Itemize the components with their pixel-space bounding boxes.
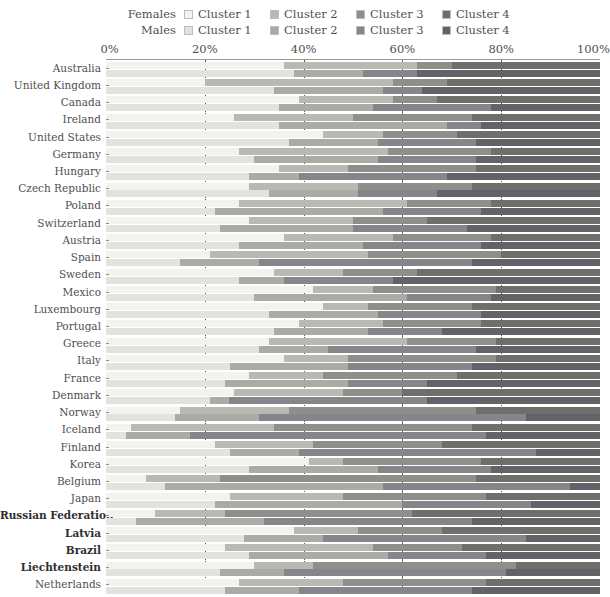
- bar-segment-cluster-4[interactable]: [491, 148, 600, 155]
- bar-segment-cluster-4[interactable]: [412, 510, 600, 517]
- bar-segment-cluster-1[interactable]: [106, 251, 210, 258]
- bar-male[interactable]: [106, 259, 600, 266]
- bar-male[interactable]: [106, 190, 600, 197]
- bar-segment-cluster-3[interactable]: [274, 424, 472, 431]
- bar-segment-cluster-4[interactable]: [536, 449, 600, 456]
- bar-segment-cluster-4[interactable]: [491, 294, 600, 301]
- bar-segment-cluster-3[interactable]: [225, 510, 413, 517]
- bar-segment-cluster-2[interactable]: [279, 165, 348, 172]
- bar-segment-cluster-4[interactable]: [476, 165, 600, 172]
- bar-segment-cluster-1[interactable]: [106, 286, 313, 293]
- bar-segment-cluster-1[interactable]: [106, 510, 155, 517]
- bar-male[interactable]: [106, 104, 600, 111]
- bar-segment-cluster-4[interactable]: [496, 338, 600, 345]
- bar-segment-cluster-2[interactable]: [136, 518, 264, 525]
- bar-segment-cluster-1[interactable]: [106, 139, 289, 146]
- bar-segment-cluster-1[interactable]: [106, 363, 230, 370]
- bar-segment-cluster-2[interactable]: [180, 407, 289, 414]
- bar-segment-cluster-2[interactable]: [313, 286, 372, 293]
- bar-segment-cluster-1[interactable]: [106, 242, 239, 249]
- bar-male[interactable]: [106, 242, 600, 249]
- bar-segment-cluster-1[interactable]: [106, 96, 299, 103]
- bar-male[interactable]: [106, 518, 600, 525]
- bar-female[interactable]: [106, 320, 600, 327]
- bar-segment-cluster-1[interactable]: [106, 397, 210, 404]
- bar-segment-cluster-4[interactable]: [427, 380, 600, 387]
- bar-segment-cluster-4[interactable]: [476, 139, 600, 146]
- bar-male[interactable]: [106, 466, 600, 473]
- bar-segment-cluster-4[interactable]: [506, 569, 600, 576]
- bar-female[interactable]: [106, 251, 600, 258]
- bar-segment-cluster-3[interactable]: [259, 259, 471, 266]
- bar-segment-cluster-2[interactable]: [244, 535, 323, 542]
- bar-segment-cluster-1[interactable]: [106, 389, 234, 396]
- bar-segment-cluster-1[interactable]: [106, 441, 215, 448]
- bar-segment-cluster-4[interactable]: [447, 79, 600, 86]
- bar-segment-cluster-1[interactable]: [106, 114, 234, 121]
- bar-segment-cluster-3[interactable]: [378, 311, 482, 318]
- bar-segment-cluster-3[interactable]: [407, 338, 496, 345]
- bar-segment-cluster-1[interactable]: [106, 458, 309, 465]
- bar-segment-cluster-2[interactable]: [249, 217, 353, 224]
- bar-segment-cluster-2[interactable]: [215, 501, 403, 508]
- bar-segment-cluster-2[interactable]: [225, 544, 373, 551]
- bar-segment-cluster-3[interactable]: [358, 190, 437, 197]
- bar-segment-cluster-1[interactable]: [106, 432, 126, 439]
- bar-segment-cluster-1[interactable]: [106, 544, 225, 551]
- bar-segment-cluster-2[interactable]: [323, 131, 382, 138]
- bar-segment-cluster-4[interactable]: [472, 363, 600, 370]
- bar-segment-cluster-2[interactable]: [175, 414, 259, 421]
- bar-segment-cluster-4[interactable]: [491, 466, 600, 473]
- bar-segment-cluster-3[interactable]: [343, 269, 417, 276]
- bar-segment-cluster-1[interactable]: [106, 569, 220, 576]
- bar-female[interactable]: [106, 338, 600, 345]
- bar-female[interactable]: [106, 269, 600, 276]
- bar-female[interactable]: [106, 458, 600, 465]
- bar-segment-cluster-2[interactable]: [249, 552, 387, 559]
- bar-female[interactable]: [106, 544, 600, 551]
- bar-segment-cluster-1[interactable]: [106, 552, 249, 559]
- bar-segment-cluster-4[interactable]: [486, 493, 600, 500]
- bar-segment-cluster-4[interactable]: [481, 458, 600, 465]
- bar-segment-cluster-2[interactable]: [234, 114, 353, 121]
- bar-female[interactable]: [106, 234, 600, 241]
- bar-segment-cluster-2[interactable]: [180, 259, 259, 266]
- bar-male[interactable]: [106, 414, 600, 421]
- bar-segment-cluster-1[interactable]: [106, 320, 299, 327]
- bar-female[interactable]: [106, 389, 600, 396]
- bar-segment-cluster-4[interactable]: [427, 397, 600, 404]
- bar-segment-cluster-1[interactable]: [106, 122, 279, 129]
- legend-item[interactable]: Cluster 3: [356, 22, 442, 38]
- bar-segment-cluster-1[interactable]: [106, 277, 239, 284]
- bar-segment-cluster-3[interactable]: [383, 320, 482, 327]
- bar-segment-cluster-4[interactable]: [472, 303, 600, 310]
- bar-segment-cluster-2[interactable]: [210, 397, 230, 404]
- bar-segment-cluster-1[interactable]: [106, 148, 239, 155]
- bar-segment-cluster-4[interactable]: [481, 208, 600, 215]
- bar-segment-cluster-1[interactable]: [106, 311, 269, 318]
- legend-item[interactable]: Cluster 1: [184, 22, 270, 38]
- bar-female[interactable]: [106, 579, 600, 586]
- bar-segment-cluster-1[interactable]: [106, 527, 294, 534]
- bar-segment-cluster-2[interactable]: [239, 148, 387, 155]
- bar-female[interactable]: [106, 424, 600, 431]
- bar-segment-cluster-3[interactable]: [348, 355, 496, 362]
- bar-segment-cluster-4[interactable]: [481, 311, 600, 318]
- bar-male[interactable]: [106, 346, 600, 353]
- bar-segment-cluster-2[interactable]: [269, 311, 378, 318]
- bar-female[interactable]: [106, 303, 600, 310]
- bar-segment-cluster-1[interactable]: [106, 208, 215, 215]
- bar-segment-cluster-3[interactable]: [343, 389, 402, 396]
- bar-segment-cluster-3[interactable]: [289, 407, 477, 414]
- bar-segment-cluster-2[interactable]: [225, 380, 349, 387]
- bar-female[interactable]: [106, 527, 600, 534]
- bar-segment-cluster-4[interactable]: [452, 62, 600, 69]
- bar-segment-cluster-2[interactable]: [299, 320, 383, 327]
- bar-segment-cluster-3[interactable]: [259, 414, 526, 421]
- bar-male[interactable]: [106, 501, 600, 508]
- bar-male[interactable]: [106, 397, 600, 404]
- bar-female[interactable]: [106, 372, 600, 379]
- bar-male[interactable]: [106, 122, 600, 129]
- bar-segment-cluster-2[interactable]: [323, 303, 367, 310]
- bar-segment-cluster-1[interactable]: [106, 259, 180, 266]
